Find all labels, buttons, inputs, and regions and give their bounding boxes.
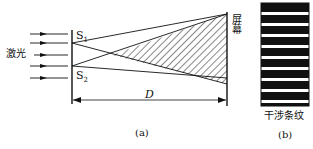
caption-a: (a) [135,128,149,138]
caption-b: (b) [278,130,292,140]
slit2-subscript: 2 [84,76,88,84]
slit2-label: S2 [76,70,88,84]
diagram-canvas [0,0,313,149]
incident-rays [30,34,68,78]
screen-label: 屏幕 [230,14,240,34]
slit1-letter: S [76,29,84,42]
slit2-letter: S [76,69,84,82]
ray-arrowheads [40,32,47,80]
fringe-pattern [261,3,309,106]
laser-label: 激光 [6,49,26,59]
slit1-label: S1 [76,30,88,44]
slit1-subscript: 1 [84,36,88,44]
fringe-label: 干涉条纹 [264,111,304,121]
distance-label: D [145,89,154,100]
